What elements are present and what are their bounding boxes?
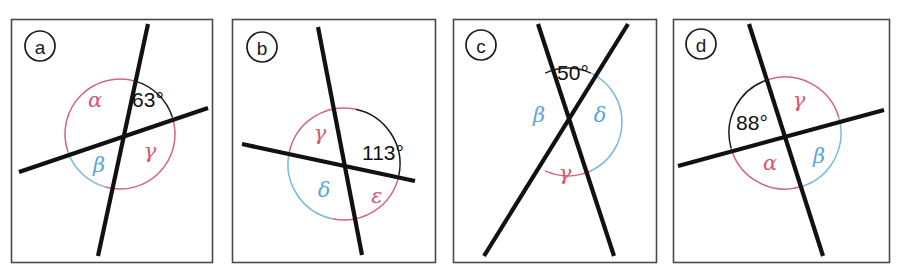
panel-b-label-epsilon: ε xyxy=(371,184,382,208)
panel-d-label-alpha: α xyxy=(763,151,777,175)
panel-a-angle-label: 63° xyxy=(132,88,164,111)
panel-c: c50°βδγ xyxy=(454,20,657,263)
panel-c-label-delta: δ xyxy=(594,103,607,127)
panel-c-badge-letter: c xyxy=(476,36,486,57)
panel-a: a63°αβγ xyxy=(12,20,213,263)
panel-strip: a63°αβγb113°γδεc50°βδγd88°γαβ xyxy=(0,0,901,270)
panel-b-label-gamma: γ xyxy=(314,121,327,145)
panel-d-label-gamma: γ xyxy=(793,88,806,112)
angle-figure-root: a63°αβγb113°γδεc50°βδγd88°γαβ xyxy=(0,0,901,270)
panel-a-label-alpha: α xyxy=(88,88,102,112)
panel-c-angle-label: 50° xyxy=(557,61,589,84)
panel-a-label-beta: β xyxy=(92,153,105,177)
panel-a-badge-letter: a xyxy=(35,37,46,58)
panel-b: b113°γδε xyxy=(233,20,436,263)
panel-d-angle-label: 88° xyxy=(736,111,768,134)
panel-b-angle-label: 113° xyxy=(362,141,404,164)
panel-b-badge-letter: b xyxy=(257,38,268,59)
panel-d-label-beta: β xyxy=(812,144,825,168)
panel-a-label-gamma: γ xyxy=(144,139,157,163)
panel-c-label-gamma: γ xyxy=(559,161,572,185)
panel-d-badge-letter: d xyxy=(696,35,707,56)
panel-d: d88°γαβ xyxy=(674,20,890,263)
panel-c-label-beta: β xyxy=(532,103,545,127)
panel-b-label-delta: δ xyxy=(318,178,331,202)
